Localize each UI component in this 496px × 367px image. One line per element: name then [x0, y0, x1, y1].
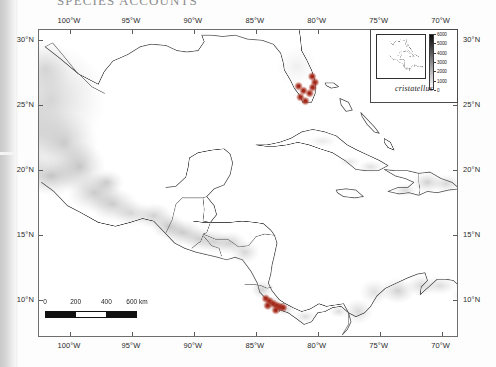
elevation-legend-label: 1000 [437, 78, 447, 83]
latitude-tick-label: 10°N [463, 295, 480, 304]
longitude-tick-label: 100°W [57, 341, 80, 350]
scale-bar-tick-label: 0 [43, 298, 47, 305]
longitude-tick-label: 85°W [245, 16, 264, 25]
elevation-legend-label: 6000 [437, 32, 447, 37]
latitude-tick-label: 25°N [8, 100, 34, 109]
axis-tickmark [194, 332, 195, 336]
axis-tickmark [453, 105, 457, 106]
longitude-tick-label: 100°W [57, 16, 80, 25]
axis-tickmark [380, 332, 381, 336]
scale-bar-segment [76, 312, 106, 317]
longitude-tick-label: 95°W [121, 16, 140, 25]
scale-bar-segment [106, 312, 136, 317]
axis-tickmark [256, 30, 257, 34]
scale-bar-tick-label: 600 km [126, 298, 147, 305]
axis-tickmark [194, 30, 195, 34]
longitude-tick-label: 75°W [369, 16, 388, 25]
elevation-legend-label: 4000 [437, 50, 447, 55]
longitude-tick-label: 80°W [307, 341, 326, 350]
latitude-tick-label: 15°N [8, 230, 34, 239]
longitude-tick-label: 75°W [369, 341, 388, 350]
axis-tickmark [256, 332, 257, 336]
elevation-legend-tick [434, 62, 436, 63]
scale-bar-tick-label: 400 [101, 298, 112, 305]
axis-tickmark [453, 170, 457, 171]
elevation-legend: 6000500040003000200010000 [429, 34, 455, 90]
species-name-label: cristatellus [371, 84, 457, 93]
elevation-legend-tick [434, 53, 436, 54]
elevation-legend-tick [434, 81, 436, 82]
longitude-tick-label: 90°W [183, 16, 202, 25]
longitude-tick-label: 80°W [307, 16, 326, 25]
elevation-legend-label: 5000 [437, 41, 447, 46]
axis-tickmark [132, 332, 133, 336]
axis-tickmark [39, 40, 43, 41]
elevation-legend-label: 2000 [437, 69, 447, 74]
inset-locator-map [376, 34, 426, 79]
latitude-tick-label: 20°N [463, 165, 480, 174]
latitude-tick-label: 30°N [8, 35, 34, 44]
distribution-map-figure: 100°W95°W90°W85°W80°W75°W70°W 100°W95°W9… [0, 0, 496, 367]
latitude-tick-label: 30°N [463, 35, 480, 44]
axis-tickmark [132, 30, 133, 34]
elevation-legend-tick [434, 34, 436, 35]
inset-panel: 6000500040003000200010000 cristatellus [370, 29, 458, 103]
longitude-tick-label: 70°W [431, 341, 450, 350]
axis-tickmark [318, 332, 319, 336]
axis-tickmark [318, 30, 319, 34]
axis-tickmark [70, 30, 71, 34]
longitude-tick-label: 85°W [245, 341, 264, 350]
longitude-tick-label: 95°W [121, 341, 140, 350]
latitude-tick-label: 15°N [463, 230, 480, 239]
axis-tickmark [453, 235, 457, 236]
scale-bar-tick-label: 200 [70, 298, 81, 305]
axis-tickmark [70, 332, 71, 336]
axis-tickmark [453, 300, 457, 301]
axis-tickmark [442, 332, 443, 336]
longitude-tick-label: 90°W [183, 341, 202, 350]
inset-map-canvas [377, 35, 425, 78]
axis-tickmark [39, 105, 43, 106]
axis-tickmark [39, 235, 43, 236]
elevation-legend-tick [434, 71, 436, 72]
axis-tickmark [39, 170, 43, 171]
latitude-tick-label: 25°N [463, 100, 480, 109]
longitude-tick-label: 70°W [431, 16, 450, 25]
scale-bar-segment [46, 312, 76, 317]
elevation-legend-tick [434, 43, 436, 44]
latitude-tick-label: 10°N [8, 295, 34, 304]
elevation-legend-label: 3000 [437, 60, 447, 65]
latitude-tick-label: 20°N [8, 165, 34, 174]
scale-bar-graphic [45, 311, 137, 318]
